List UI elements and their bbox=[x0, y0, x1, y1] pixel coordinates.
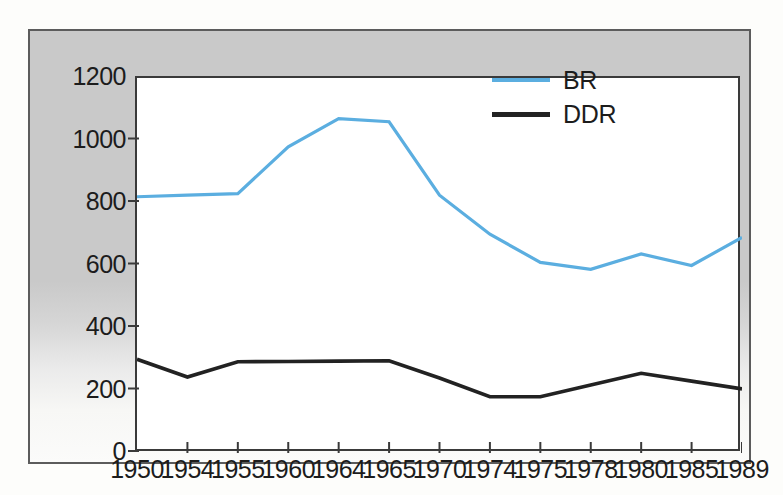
legend-swatch-br bbox=[492, 78, 550, 82]
series-layer bbox=[137, 119, 742, 453]
x-tick-label: 1978 bbox=[564, 457, 618, 482]
x-tick-label: 1975 bbox=[514, 457, 568, 482]
series-line-ddr bbox=[137, 359, 742, 397]
chart-legend: BR DDR bbox=[492, 63, 672, 131]
x-tick-label: 1965 bbox=[362, 457, 416, 482]
x-tick-label: 1974 bbox=[463, 457, 517, 482]
x-tick-label: 1964 bbox=[312, 457, 366, 482]
x-tick-label: 1985 bbox=[665, 457, 719, 482]
x-tick-label: 1960 bbox=[261, 457, 315, 482]
y-tick-label: 400 bbox=[40, 314, 126, 339]
legend-swatch-ddr bbox=[492, 112, 550, 117]
y-tick-label: 1000 bbox=[40, 127, 126, 152]
y-tick-label: 200 bbox=[40, 377, 126, 402]
x-tick-label: 1955 bbox=[211, 457, 265, 482]
x-tick-label: 1954 bbox=[161, 457, 215, 482]
legend-label-ddr: DDR bbox=[563, 102, 616, 127]
y-ticks-layer bbox=[128, 139, 139, 452]
legend-label-br: BR bbox=[563, 68, 597, 93]
y-tick-label: 800 bbox=[40, 189, 126, 214]
plot-area bbox=[135, 76, 740, 451]
chart-panel: 1200 1000 800 600 400 200 0 195019541955… bbox=[30, 31, 749, 462]
x-tick-label: 1970 bbox=[413, 457, 467, 482]
figure-frame: 1200 1000 800 600 400 200 0 195019541955… bbox=[28, 29, 751, 464]
figure-page: 1200 1000 800 600 400 200 0 195019541955… bbox=[0, 0, 783, 495]
x-tick-label: 1950 bbox=[110, 457, 164, 482]
legend-entry-br: BR bbox=[492, 63, 672, 97]
y-tick-label: 1200 bbox=[40, 64, 126, 89]
x-tick-label: 1989 bbox=[715, 457, 769, 482]
y-axis-ticks bbox=[126, 31, 140, 462]
x-tick-label: 1980 bbox=[614, 457, 668, 482]
series-line-br bbox=[137, 119, 742, 270]
x-axis-tick-labels: 1950195419551960196419651970197419751978… bbox=[135, 457, 747, 491]
y-axis-tick-labels: 1200 1000 800 600 400 200 0 bbox=[34, 31, 126, 462]
plot-svg bbox=[137, 78, 742, 453]
y-tick-label: 600 bbox=[40, 252, 126, 277]
legend-entry-ddr: DDR bbox=[492, 97, 672, 131]
